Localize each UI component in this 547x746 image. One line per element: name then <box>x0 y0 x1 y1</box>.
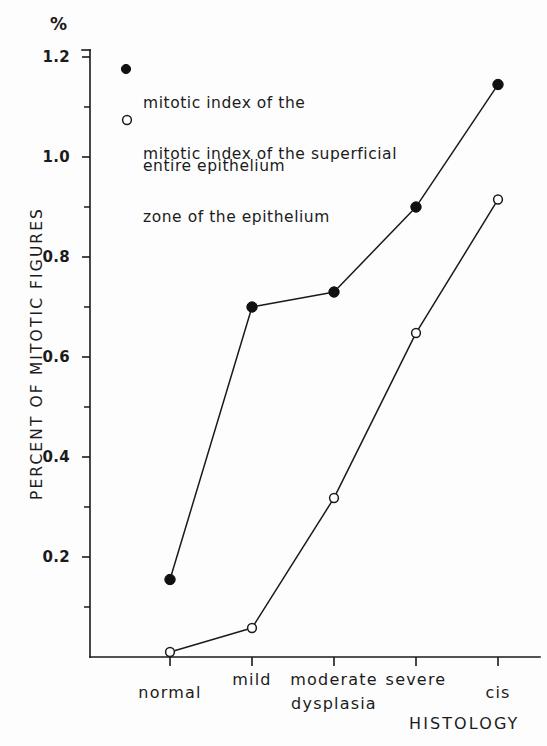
legend-entry-line-2: zone of the epithelium <box>143 207 397 228</box>
legend-marker-open-circle <box>123 116 132 125</box>
y-tick-label-1-2: 1.2 <box>28 48 70 66</box>
data-point-cis <box>493 79 503 89</box>
x-axis-ticks <box>170 657 498 666</box>
data-point-mild <box>248 624 257 633</box>
y-tick-label-1-0: 1.0 <box>28 148 70 166</box>
legend-entry-line-1: mitotic index of the superficial <box>143 144 397 165</box>
data-point-normal <box>166 648 175 657</box>
data-point-normal <box>165 574 175 584</box>
x-tick-label-cis: cis <box>458 683 538 702</box>
data-point-cis <box>494 195 503 204</box>
legend-markers <box>121 64 131 124</box>
y-axis-title: PERCENT OF MITOTIC FIGURES <box>28 207 46 500</box>
y-axis-unit-label: % <box>50 14 67 34</box>
series-line-superficial-zone <box>174 203 495 650</box>
data-point-moderate-dysplasia <box>329 287 339 297</box>
data-point-severe <box>411 202 421 212</box>
x-tick-label-severe: severe <box>366 670 466 689</box>
x-tick-label-normal: normal <box>120 683 220 702</box>
y-tick-label-0-2: 0.2 <box>28 548 70 566</box>
x-axis-title: HISTOLOGY <box>409 714 520 733</box>
x-tick-label-dysplasia: dysplasia <box>274 694 394 713</box>
legend-marker-filled-circle <box>121 64 130 73</box>
figure-container: % 1.2 1.0 0.8 0.6 0.4 0.2 PERCENT OF MIT… <box>0 0 547 746</box>
data-point-mild <box>247 302 257 312</box>
legend-entry-superficial-zone: mitotic index of the superficial zone of… <box>143 102 397 270</box>
data-point-moderate-dysplasia <box>330 494 339 503</box>
data-point-severe <box>412 329 421 338</box>
